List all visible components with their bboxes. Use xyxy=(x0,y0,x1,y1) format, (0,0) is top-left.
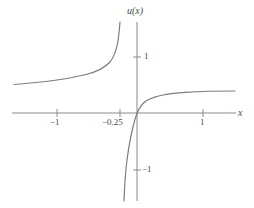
curve-right-branch xyxy=(124,91,235,201)
x-tick-label--0.25: −0.25 xyxy=(102,118,123,127)
y-axis-label: u(x) xyxy=(127,6,143,16)
x-tick-label--1: −1 xyxy=(50,118,60,127)
plot-canvas xyxy=(0,0,254,208)
y-tick-label--1: −1 xyxy=(142,165,152,174)
y-tick-label-1: 1 xyxy=(144,52,149,61)
x-tick-label-1: 1 xyxy=(200,118,205,127)
curve-left-branch xyxy=(14,22,120,85)
figure-container: u(x) x −1 −0.25 1 1 −1 xyxy=(0,0,254,208)
x-axis-label: x xyxy=(238,108,242,118)
